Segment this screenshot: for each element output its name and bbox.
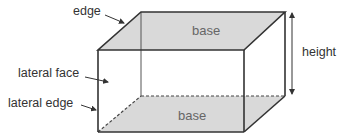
edge-pointer-arrow [105,15,124,23]
edge-label: edge [73,4,101,18]
prism-diagram: edge base base height lateral face later… [0,0,346,140]
lateral-face-pointer-arrow [85,77,108,82]
lateral-edge-pointer-arrow [81,105,96,110]
bottom-base-label: base [178,108,206,123]
height-label: height [302,45,337,59]
lateral-edge-label: lateral edge [8,96,73,110]
lateral-face-label: lateral face [18,66,79,80]
top-base-label: base [192,23,220,38]
